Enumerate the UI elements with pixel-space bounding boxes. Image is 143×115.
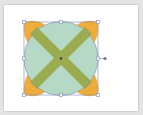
handle-se [97, 94, 100, 97]
center-point [60, 57, 63, 60]
handle-ne [97, 21, 100, 24]
canvas-graphic[interactable] [0, 0, 143, 115]
rotation-handle[interactable] [103, 57, 106, 60]
handle-sw [23, 94, 26, 97]
handle-s [60, 94, 63, 97]
handle-w [23, 57, 26, 60]
handle-e [97, 57, 100, 60]
handle-n [60, 21, 63, 24]
handle-nw [23, 21, 26, 24]
